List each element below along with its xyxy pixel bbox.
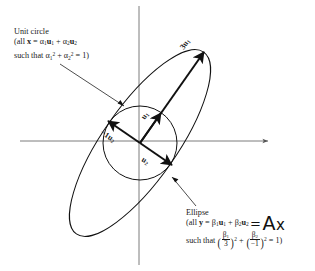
open-paren-1: (: [218, 238, 221, 248]
matrix-a-symbol: A: [262, 212, 276, 234]
unit-circle-title: Unit circle: [14, 27, 89, 37]
close-paren-1: ): [230, 238, 233, 248]
unit-circle-caption: Unit circle (all x = α1u1 + α2u2 such th…: [14, 27, 89, 63]
leader-arrowhead-ellipse: [172, 177, 178, 182]
leader-line-unit-circle: [60, 64, 124, 106]
unit-circle-constraint: such that α12 + α22 = 1): [14, 49, 89, 63]
ax-annotation: =Ax: [250, 212, 285, 234]
unit-circle-definition: (all x = α1u1 + α2u2: [14, 37, 89, 49]
equals-sign: =: [250, 216, 261, 231]
leader-arrowhead-unit-circle: [118, 100, 124, 106]
x-vector-symbol: x: [276, 216, 285, 234]
beta1-over-3: β13: [222, 231, 230, 248]
open-paren-2: (: [246, 238, 249, 248]
close-paren-2: ): [260, 238, 263, 248]
